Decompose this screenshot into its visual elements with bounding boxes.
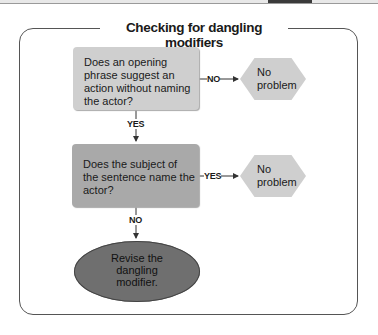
question-box-subject-actor: Does the subject of the sentence name th… xyxy=(72,144,199,207)
question1-line: Does an opening xyxy=(84,56,199,69)
question-box-opening-phrase: Does an opening phrase suggest an action… xyxy=(73,47,199,110)
action-revise-oval: Revise the dangling modifier. xyxy=(74,241,200,302)
action-line: modifier. xyxy=(74,276,200,288)
question2-line: actor? xyxy=(83,184,199,197)
edge-label-no: NO xyxy=(207,74,220,84)
question1-line: action without naming xyxy=(84,82,199,95)
edge-label-no: NO xyxy=(129,215,142,225)
question1-line: the actor? xyxy=(84,95,199,108)
action-line: Revise the xyxy=(74,252,200,264)
question2-line: Does the subject of xyxy=(83,153,199,171)
question1-line: phrase suggest an xyxy=(84,69,199,82)
edge-label-yes: YES xyxy=(204,171,221,181)
edge-label-yes: YES xyxy=(127,119,144,129)
question2-line: the sentence name the xyxy=(83,171,199,184)
action-line: dangling xyxy=(74,264,200,276)
